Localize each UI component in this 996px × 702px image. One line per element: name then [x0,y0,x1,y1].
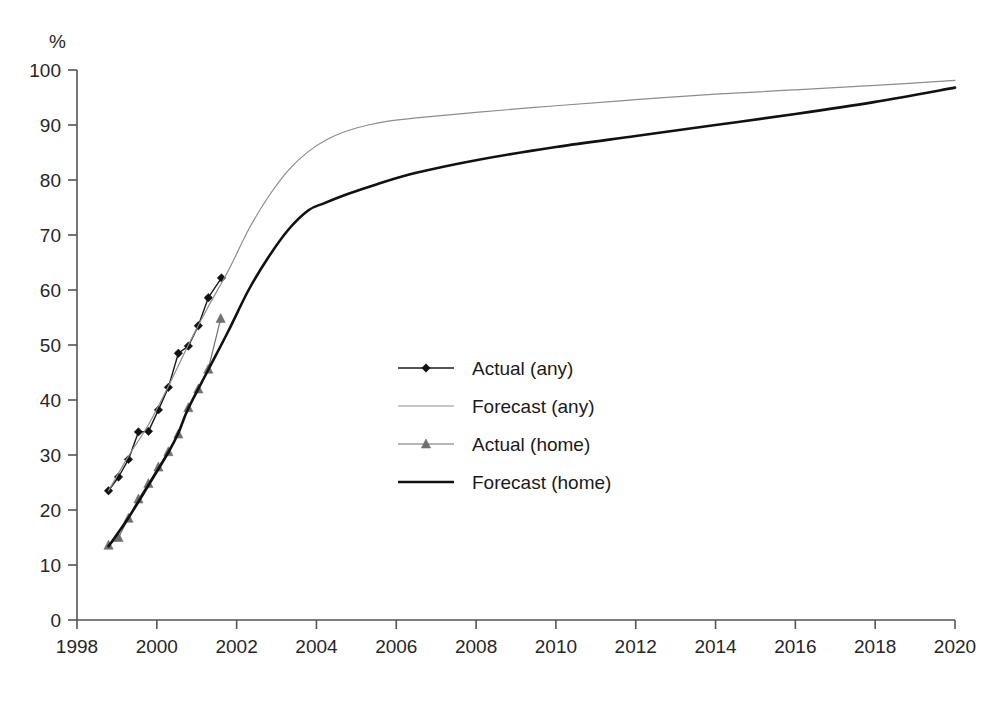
x-axis-tick-label: 2016 [774,636,816,657]
y-axis-tick-label: 80 [40,170,61,191]
legend-layer: Actual (any)Forecast (any)Actual (home)F… [398,358,611,493]
y-axis-tick-label: 20 [40,500,61,521]
y-axis-unit-label: % [49,31,66,52]
data-point-actual_home [216,314,225,323]
legend-label-forecast_any: Forecast (any) [472,396,594,417]
x-axis-tick-label: 2000 [136,636,178,657]
y-axis-tick-label: 100 [29,60,61,81]
legend-label-actual_home: Actual (home) [472,434,590,455]
chart-container: 0102030405060708090100199820002002200420… [0,0,996,702]
x-axis-tick-label: 2008 [455,636,497,657]
series-forecast_any [109,80,955,490]
data-point-actual_any [144,427,152,435]
x-axis-tick-label: 2012 [615,636,657,657]
x-axis-tick-label: 2020 [934,636,976,657]
legend-label-forecast_home: Forecast (home) [472,472,611,493]
y-axis-tick-label: 70 [40,225,61,246]
line-chart: 0102030405060708090100199820002002200420… [0,0,996,702]
legend-item-forecast_home[interactable]: Forecast (home) [398,472,611,493]
series-line-forecast_any [109,80,955,490]
x-axis-tick-label: 1998 [56,636,98,657]
y-axis-tick-label: 30 [40,445,61,466]
legend-swatch-marker-actual_any [422,364,430,372]
y-axis-tick-label: 60 [40,280,61,301]
axes-layer: 0102030405060708090100199820002002200420… [29,31,976,657]
y-axis-tick-label: 90 [40,115,61,136]
legend-item-actual_any[interactable]: Actual (any) [398,358,573,379]
legend-item-actual_home[interactable]: Actual (home) [398,434,590,455]
x-axis-tick-label: 2002 [215,636,257,657]
y-axis-tick-label: 50 [40,335,61,356]
x-axis-tick-label: 2006 [375,636,417,657]
series-line-actual_home [109,319,221,546]
y-axis-tick-label: 10 [40,555,61,576]
data-point-actual_any [134,428,142,436]
series-actual_home [104,314,225,550]
legend-item-forecast_any[interactable]: Forecast (any) [398,396,594,417]
y-axis-tick-label: 40 [40,390,61,411]
x-axis-tick-label: 2018 [854,636,896,657]
legend-label-actual_any: Actual (any) [472,358,573,379]
x-axis-tick-label: 2014 [694,636,737,657]
x-axis-tick-label: 2004 [295,636,338,657]
y-axis-tick-label: 0 [50,610,61,631]
x-axis-tick-label: 2010 [535,636,577,657]
